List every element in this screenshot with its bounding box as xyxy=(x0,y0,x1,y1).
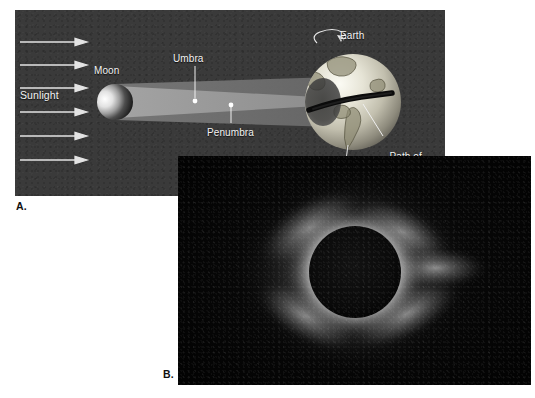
label-sunlight: Sunlight xyxy=(20,90,59,102)
corona-svg xyxy=(178,156,531,385)
sunlight-ray-1 xyxy=(20,38,87,45)
penumbra-leader-dot xyxy=(229,103,234,108)
umbra-leader-dot xyxy=(193,99,198,104)
sunlight-ray-6 xyxy=(20,156,87,163)
sunlight-ray-4 xyxy=(20,108,87,115)
moon-body xyxy=(97,84,133,120)
eclipsed-sun-disk xyxy=(309,226,401,318)
label-umbra: Umbra xyxy=(173,53,204,65)
sunlight-ray-5 xyxy=(20,132,87,139)
caption-panel-a: A. xyxy=(16,200,27,212)
label-moon: Moon xyxy=(94,65,119,77)
label-penumbra: Penumbra xyxy=(207,127,254,139)
label-earth: Earth xyxy=(340,30,364,42)
caption-panel-b: B. xyxy=(163,368,174,380)
panel-b-corona-photo xyxy=(178,156,531,385)
sunlight-ray-2 xyxy=(20,61,87,68)
